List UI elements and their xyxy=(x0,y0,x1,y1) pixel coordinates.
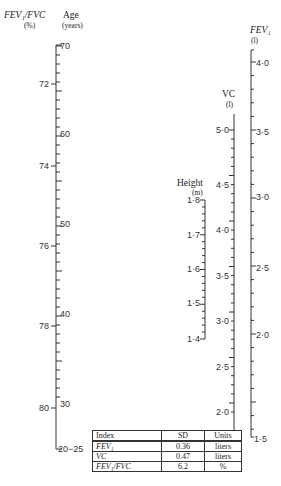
vc-label: 3·5 xyxy=(216,271,229,281)
fev-fvc-axis-title: FEV₁/FVC xyxy=(3,10,46,20)
cell-units: liters xyxy=(205,452,242,462)
table-row: FEV₁ 0.36 liters xyxy=(93,441,242,452)
vc-label: 2·5 xyxy=(216,362,229,372)
fev1-label: 3·0 xyxy=(256,192,269,202)
vc-label: 5·0 xyxy=(216,125,229,135)
height-label: 1·4 xyxy=(187,334,200,344)
vc-label: 3·0 xyxy=(216,316,229,326)
fev-fvc-label: 76 xyxy=(39,241,49,251)
height-label: 1·5 xyxy=(187,298,200,308)
cell-sd: 0.36 xyxy=(162,441,205,452)
height-label: 1·8 xyxy=(187,195,200,205)
age-label: 20−25 xyxy=(58,444,83,454)
nomogram: FEV₁/FVC (%) Age (years) 70 60 50 40 30 … xyxy=(0,0,281,486)
age-label: 70 xyxy=(60,41,70,51)
age-label: 60 xyxy=(60,129,70,139)
header-index: Index xyxy=(93,431,162,442)
vc-label: 4·5 xyxy=(216,180,229,190)
cell-index: FEV₁ xyxy=(93,441,162,452)
cell-sd: 6.2 xyxy=(162,462,205,472)
cell-index: VC xyxy=(93,452,162,462)
vc-axis-title: VC xyxy=(222,89,235,99)
fev1-label: 4·0 xyxy=(256,58,269,68)
age-label: 50 xyxy=(60,219,70,229)
vc-axis-unit: (l) xyxy=(226,100,234,109)
age-label: 30 xyxy=(60,399,70,409)
age-axis-title: Age xyxy=(63,10,79,20)
cell-index: FEV₁/FVC xyxy=(93,462,162,472)
height-label: 1·6 xyxy=(187,264,200,274)
fev1-label: 3·5 xyxy=(256,127,269,137)
cell-units: liters xyxy=(205,441,242,452)
vc-axis xyxy=(229,114,234,430)
height-axis xyxy=(200,200,205,339)
age-axis-unit: (years) xyxy=(62,21,83,30)
cell-sd: 0.47 xyxy=(162,452,205,462)
fev-fvc-label: 72 xyxy=(39,79,49,89)
sd-table: Index SD Units FEV₁ 0.36 liters VC 0.47 … xyxy=(92,430,242,472)
fev1-axis-unit: (l) xyxy=(251,36,259,45)
fev1-label: 2·0 xyxy=(256,330,269,340)
fev-fvc-axis-unit: (%) xyxy=(24,21,36,30)
table-row: VC 0.47 liters xyxy=(93,452,242,462)
fev1-label: 2·5 xyxy=(256,263,269,273)
height-axis-title: Height xyxy=(177,178,203,188)
header-units: Units xyxy=(205,431,242,442)
vc-label: 4·0 xyxy=(216,225,229,235)
header-sd: SD xyxy=(162,431,205,442)
age-fev-fvc-axis xyxy=(56,45,62,449)
height-label: 1·7 xyxy=(187,230,200,240)
table-header-row: Index SD Units xyxy=(93,431,242,442)
fev-fvc-label: 80 xyxy=(39,403,49,413)
fev-fvc-label: 78 xyxy=(39,321,49,331)
age-label: 40 xyxy=(60,309,70,319)
fev1-label: 1·5 xyxy=(254,434,267,444)
fev1-axis xyxy=(251,50,256,437)
table-row: FEV₁/FVC 6.2 % xyxy=(93,462,242,472)
vc-label: 2·0 xyxy=(216,407,229,417)
fev-fvc-label: 74 xyxy=(39,161,49,171)
cell-units: % xyxy=(205,462,242,472)
fev1-axis-title: FEV₁ xyxy=(249,25,271,35)
